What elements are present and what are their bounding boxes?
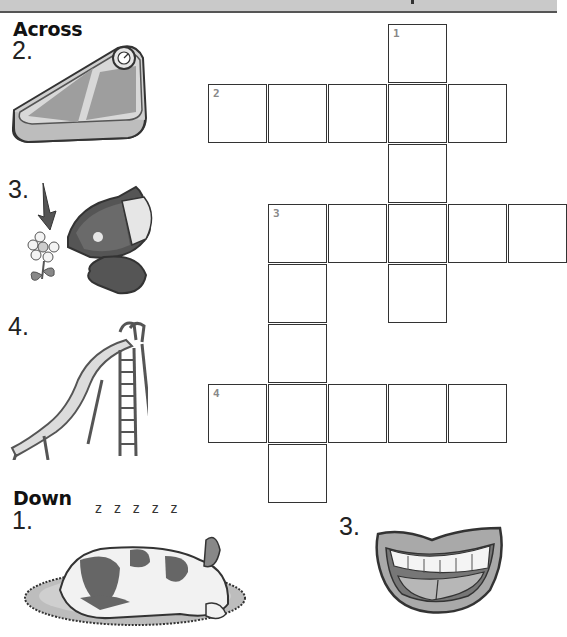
grid-cell-r1-c4[interactable] (448, 84, 507, 143)
grid-cell-r3-c4[interactable] (448, 204, 507, 263)
grid-cell-r3-c1[interactable]: 3 (268, 204, 327, 263)
grid-cell-r1-c2[interactable] (328, 84, 387, 143)
grid-cell-r3-c3[interactable] (388, 204, 447, 263)
smiling-mouth-icon (372, 524, 507, 616)
grid-cell-r1-c0[interactable]: 2 (208, 84, 267, 143)
sleep-zzz-text: z z z z z (95, 500, 182, 516)
grid-cell-r5-c1[interactable] (268, 324, 327, 383)
top-bar-mark (411, 0, 414, 4)
page-top-bar (0, 0, 557, 13)
grid-cell-r7-c1[interactable] (268, 444, 327, 503)
grid-cell-r3-c2[interactable] (328, 204, 387, 263)
grid-cell-r1-c1[interactable] (268, 84, 327, 143)
grid-cell-r4-c3[interactable] (388, 264, 447, 323)
grid-cell-r6-c3[interactable] (388, 384, 447, 443)
sleeping-dog-icon (20, 530, 250, 630)
grid-cell-r4-c1[interactable] (268, 264, 327, 323)
grid-clue-number: 1 (393, 27, 400, 40)
grid-cell-r1-c3[interactable] (388, 84, 447, 143)
grid-cell-r0-c3[interactable]: 1 (388, 24, 447, 83)
grid-cell-r6-c2[interactable] (328, 384, 387, 443)
down-clue-3-number: 3. (339, 512, 360, 541)
cat-smelling-flower-icon (18, 175, 158, 300)
grid-clue-number: 3 (273, 207, 280, 220)
grid-clue-number: 4 (213, 387, 220, 400)
grid-cell-r6-c1[interactable] (268, 384, 327, 443)
grid-cell-r3-c5[interactable] (508, 204, 567, 263)
bathroom-scale-icon (8, 40, 148, 150)
grid-clue-number: 2 (213, 87, 220, 100)
grid-cell-r6-c0[interactable]: 4 (208, 384, 267, 443)
grid-cell-r2-c3[interactable] (388, 144, 447, 203)
grid-cell-r6-c4[interactable] (448, 384, 507, 443)
playground-slide-icon (8, 320, 148, 460)
